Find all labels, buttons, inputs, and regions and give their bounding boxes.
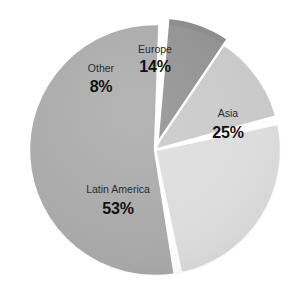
- pie-shading-overlay: [29, 24, 281, 276]
- pie-chart-svg: Europe14%Asia25%Latin America53%Other8%: [0, 0, 306, 287]
- pie-chart-container: Europe14%Asia25%Latin America53%Other8%: [0, 0, 306, 287]
